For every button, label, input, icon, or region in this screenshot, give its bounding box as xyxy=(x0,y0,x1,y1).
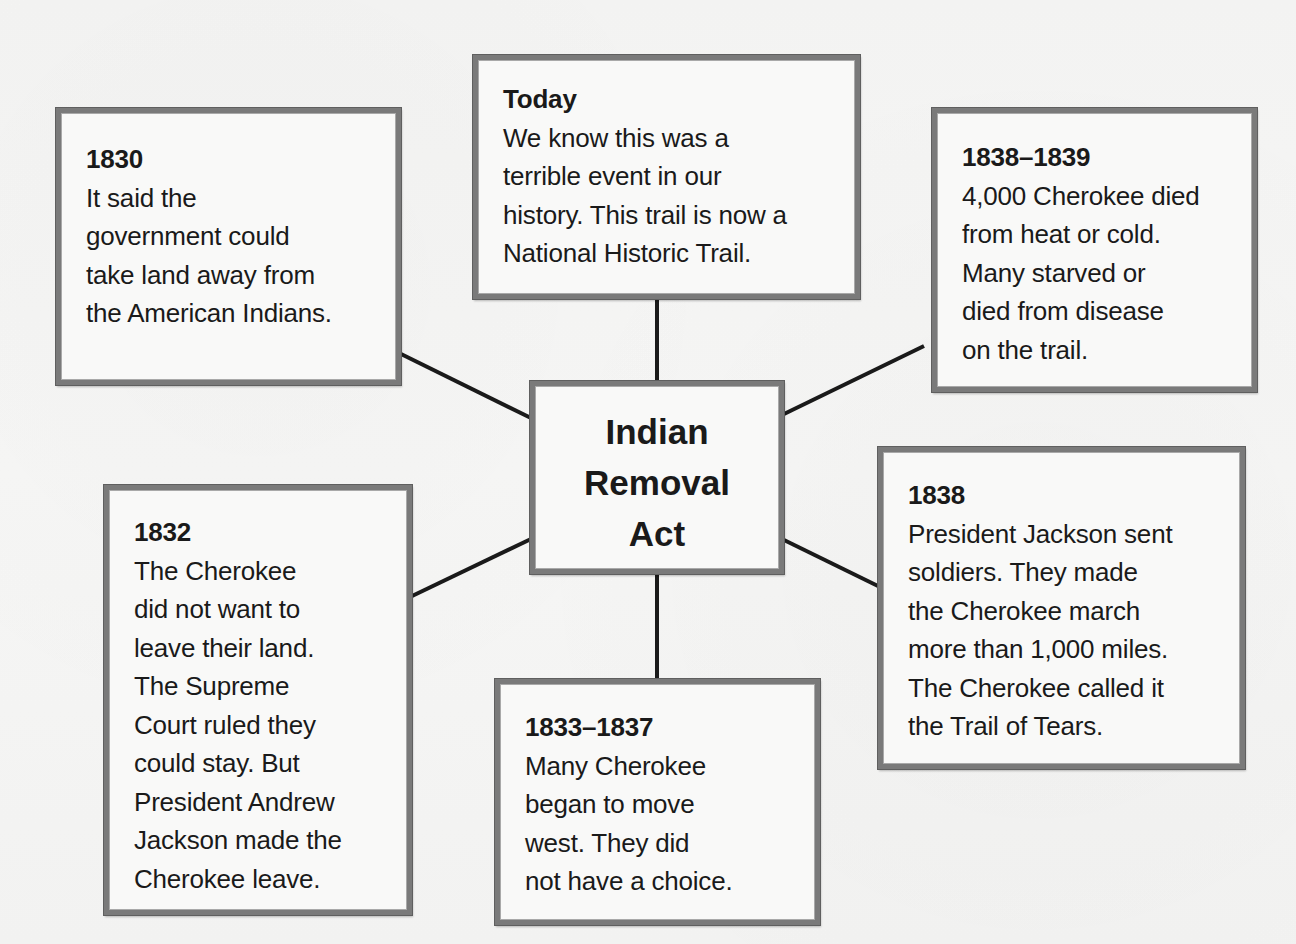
event-text-line: leave their land. xyxy=(134,629,342,668)
event-text-line: Jackson made the xyxy=(134,821,342,860)
event-text-line: west. They did xyxy=(525,824,732,863)
center-topic-title: Indian Removal Act xyxy=(535,406,779,559)
event-text-line: died from disease xyxy=(962,292,1200,331)
event-year: 1830 xyxy=(86,140,332,179)
event-text-line: not have a choice. xyxy=(525,862,732,901)
event-box-1833-1837: 1833–1837 Many Cherokee began to move we… xyxy=(495,679,820,925)
center-topic-box: Indian Removal Act xyxy=(530,381,784,574)
connector-1838 xyxy=(784,540,880,587)
event-text-line: from heat or cold. xyxy=(962,215,1200,254)
connector-1830 xyxy=(399,353,531,418)
event-text-line: did not want to xyxy=(134,590,342,629)
event-box-1838-1839: 1838–1839 4,000 Cherokee died from heat … xyxy=(932,108,1257,392)
event-box-1832: 1832 The Cherokee did not want to leave … xyxy=(104,485,412,915)
event-text-line: the Cherokee march xyxy=(908,592,1172,631)
center-title-line: Removal xyxy=(535,457,779,508)
event-text-line: more than 1,000 miles. xyxy=(908,630,1172,669)
event-text-line: terrible event in our xyxy=(503,157,787,196)
event-text-line: The Cherokee called it xyxy=(908,669,1172,708)
event-text-line: Many Cherokee xyxy=(525,747,732,786)
event-box-1838: 1838 President Jackson sent soldiers. Th… xyxy=(878,447,1245,769)
event-year: 1838–1839 xyxy=(962,138,1200,177)
event-box-today: Today We know this was a terrible event … xyxy=(473,55,860,299)
center-title-line: Act xyxy=(535,508,779,559)
event-text-line: Court ruled they xyxy=(134,706,342,745)
event-year: Today xyxy=(503,80,787,119)
event-text-line: The Cherokee xyxy=(134,552,342,591)
event-text-line: National Historic Trail. xyxy=(503,234,787,273)
event-text-line: could stay. But xyxy=(134,744,342,783)
event-text-line: 4,000 Cherokee died xyxy=(962,177,1200,216)
event-text-line: President Andrew xyxy=(134,783,342,822)
event-text-line: government could xyxy=(86,217,332,256)
event-box-1830: 1830 It said the government could take l… xyxy=(56,108,401,385)
event-text-line: Many starved or xyxy=(962,254,1200,293)
event-text-line: The Supreme xyxy=(134,667,342,706)
connector-1832 xyxy=(410,539,531,597)
event-year: 1832 xyxy=(134,513,342,552)
connector-1838-1839 xyxy=(784,346,924,414)
event-text-line: began to move xyxy=(525,785,732,824)
event-text-line: the American Indians. xyxy=(86,294,332,333)
event-text-line: the Trail of Tears. xyxy=(908,707,1172,746)
event-text-line: Cherokee leave. xyxy=(134,860,342,899)
event-year: 1833–1837 xyxy=(525,708,732,747)
event-text-line: It said the xyxy=(86,179,332,218)
event-text-line: soldiers. They made xyxy=(908,553,1172,592)
event-text-line: on the trail. xyxy=(962,331,1200,370)
event-text-line: We know this was a xyxy=(503,119,787,158)
center-title-line: Indian xyxy=(535,406,779,457)
event-year: 1838 xyxy=(908,476,1172,515)
event-text-line: President Jackson sent xyxy=(908,515,1172,554)
event-text-line: take land away from xyxy=(86,256,332,295)
event-text-line: history. This trail is now a xyxy=(503,196,787,235)
